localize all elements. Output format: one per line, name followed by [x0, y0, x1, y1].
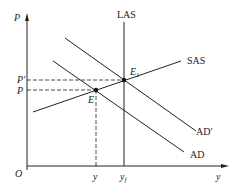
equilibrium-e-dot: [94, 88, 98, 92]
ad-curve: [53, 61, 184, 152]
price-axis-label: P: [13, 12, 20, 23]
p-label: P: [16, 85, 23, 96]
ad-prime-curve: [65, 38, 196, 131]
as-ad-diagram: P y O LAS SAS AD AD′ P′ P E E1 y yf: [0, 0, 238, 190]
y-label: y: [92, 171, 98, 182]
output-axis-label: y: [215, 171, 221, 182]
p-prime-label: P′: [16, 74, 26, 85]
las-label: LAS: [117, 9, 136, 20]
ad-prime-label: AD′: [196, 126, 213, 137]
equilibrium-e1-dot: [122, 78, 126, 82]
e-label: E: [87, 94, 94, 105]
output-axis-arrow-icon: [221, 164, 229, 168]
origin-label: O: [15, 168, 22, 179]
ad-label: AD: [190, 149, 204, 160]
yf-label: yf: [119, 171, 127, 184]
price-axis-arrow-icon: [25, 13, 29, 21]
sas-label: SAS: [187, 55, 205, 66]
